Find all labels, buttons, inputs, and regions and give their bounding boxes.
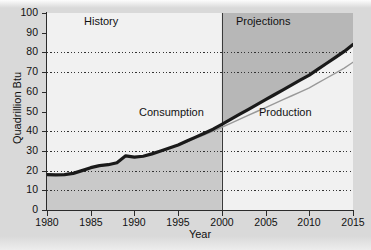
x-tick-label: 2015 [331,216,371,228]
y-tick-mark [42,52,47,53]
y-tick-label: 100 [20,8,38,17]
y-tick-label: 90 [26,28,38,37]
y-axis-title: Quadrillion Btu [11,33,23,183]
figure-background-top-fade [0,0,371,8]
y-tick-mark [42,171,47,172]
y-tick-label: 10 [26,185,38,194]
x-axis-line [46,210,354,211]
y-tick-mark [42,72,47,73]
annotation-consumption: Consumption [139,106,204,118]
x-tick-label: 2000 [200,216,244,228]
x-tick-label: 2010 [287,216,331,228]
y-tick-mark [42,92,47,93]
y-tick-mark [42,13,47,14]
x-tick-label: 1990 [112,216,156,228]
x-tick-label: 2005 [244,216,288,228]
x-axis-title: Year [150,228,250,240]
y-tick-label: 60 [26,87,38,96]
y-tick-label: 50 [26,107,38,116]
y-tick-label: 0 [32,205,38,214]
y-tick-mark [42,33,47,34]
annotation-projections: Projections [236,15,290,27]
y-tick-label: 80 [26,47,38,56]
x-tick-label: 1980 [25,216,69,228]
x-tick-label: 1985 [69,216,113,228]
y-tick-mark [42,190,47,191]
y-tick-mark [42,131,47,132]
y-tick-label: 20 [26,166,38,175]
y-tick-mark [42,112,47,113]
y-tick-label: 30 [26,146,38,155]
x-tick-label: 1995 [156,216,200,228]
y-tick-mark [42,151,47,152]
y-tick-label: 40 [26,126,38,135]
y-tick-label: 70 [26,67,38,76]
annotation-history: History [84,15,118,27]
chart-figure: 0102030405060708090100 19801985199019952… [0,0,371,250]
annotation-production: Production [259,106,312,118]
